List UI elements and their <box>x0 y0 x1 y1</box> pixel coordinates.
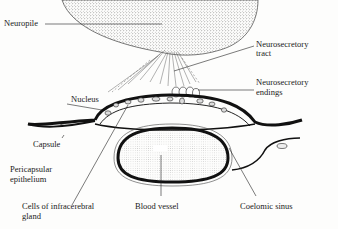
label-cells-1: Cells of infracerebral <box>22 202 94 211</box>
label-neurosecretory-tract-2: tract <box>256 49 271 58</box>
neurosecretory-tract <box>108 50 200 92</box>
blood-vessel <box>118 128 228 182</box>
label-nucleus: Nucleus <box>71 95 99 104</box>
neuropile-mass <box>62 0 258 55</box>
diagram-canvas: Neuropile Neurosecretory tract Nucleus N… <box>0 0 338 229</box>
label-capsule: Capsule <box>33 140 60 149</box>
label-pericapsular-2: epithelium <box>10 175 46 184</box>
label-blood-vessel: Blood vessel <box>135 202 179 211</box>
blood-vessel-highlight <box>153 145 167 151</box>
label-cells-2: gland <box>22 212 41 221</box>
label-neurosecretory-endings-2: endings <box>256 88 282 97</box>
label-neuropile: Neuropile <box>4 19 38 28</box>
diagram-drawing <box>0 0 338 229</box>
capsule <box>28 95 302 125</box>
label-pericapsular-1: Pericapsular <box>10 165 52 174</box>
label-neurosecretory-endings-1: Neurosecretory <box>256 78 308 87</box>
label-coelomic-sinus: Coelomic sinus <box>240 202 293 211</box>
small-cell-icon <box>277 144 287 149</box>
